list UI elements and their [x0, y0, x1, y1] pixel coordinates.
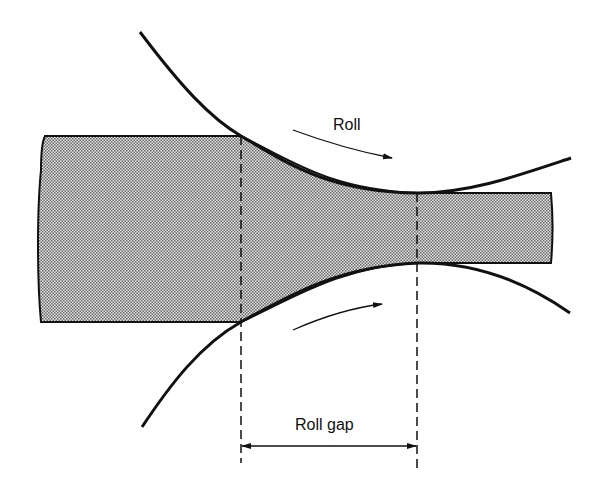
roll-label: Roll: [333, 116, 361, 134]
roll-gap-label: Roll gap: [295, 416, 354, 434]
upper-rotation-arrow: [293, 130, 392, 158]
lower-rotation-arrow: [293, 304, 382, 330]
